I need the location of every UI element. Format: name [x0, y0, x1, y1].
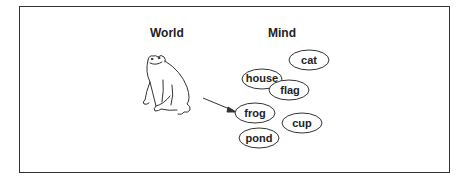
concept-flag: flag — [280, 84, 300, 96]
concept-pond: pond — [246, 132, 273, 144]
concept-cat: cat — [301, 54, 317, 66]
arrow — [203, 98, 236, 112]
concept-frog: frog — [244, 107, 265, 119]
diagram-graphics — [0, 0, 468, 183]
concept-cup: cup — [292, 117, 312, 129]
concept-house: house — [246, 72, 278, 84]
frog-drawing-icon — [143, 56, 190, 115]
